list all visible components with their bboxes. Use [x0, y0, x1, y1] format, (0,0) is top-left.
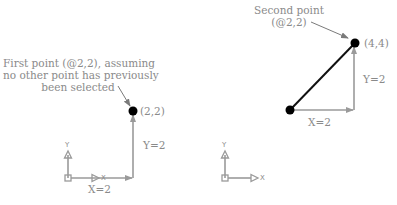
- left-ucs-icon: [65, 151, 100, 182]
- left-annotation-line1: First point (@2,2), assuming: [3, 57, 153, 69]
- start-point-marker: [286, 106, 295, 115]
- left-ucs-y-label: Y: [65, 141, 69, 149]
- right-ucs-y-label: Y: [222, 141, 226, 149]
- right-ucs-icon: [222, 151, 259, 182]
- right-x-delta-label: X=2: [308, 116, 331, 128]
- right-annotation: Second point (@2,2): [252, 4, 326, 28]
- right-annotation-line2: (@2,2): [252, 16, 326, 28]
- left-y-delta-label: Y=2: [143, 139, 165, 151]
- left-annotation-line3: been selected: [3, 81, 153, 93]
- right-ucs-x-label: X: [260, 174, 265, 182]
- left-point-marker: [129, 107, 138, 116]
- left-ucs-x-label: X: [101, 174, 106, 182]
- diagram-canvas: [0, 0, 397, 205]
- line-segment: [290, 43, 355, 110]
- left-annotation-line2: no other point has previously: [3, 69, 153, 81]
- left-x-delta-label: X=2: [88, 183, 111, 195]
- right-y-delta-label: Y=2: [363, 73, 385, 85]
- left-annotation: First point (@2,2), assuming no other po…: [3, 57, 153, 93]
- right-annotation-line1: Second point: [252, 4, 326, 16]
- right-point-label: (4,4): [364, 37, 389, 49]
- left-point-label: (2,2): [140, 105, 165, 117]
- end-point-marker: [351, 39, 360, 48]
